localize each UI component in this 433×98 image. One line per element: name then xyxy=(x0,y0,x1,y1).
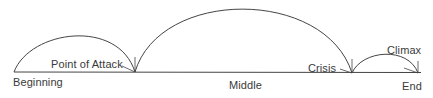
climax-label: Climax xyxy=(387,45,421,56)
climax-arc xyxy=(352,54,418,73)
diagram-lines xyxy=(0,0,433,98)
end-label: End xyxy=(402,81,422,92)
crisis-label: Crisis xyxy=(308,63,336,74)
timeline-baseline xyxy=(14,72,421,73)
beginning-label: Beginning xyxy=(13,77,63,88)
plot-structure-diagram: Beginning Point of Attack Middle Crisis … xyxy=(0,0,433,98)
point-of-attack-label: Point of Attack xyxy=(51,59,123,70)
middle-label: Middle xyxy=(229,80,262,91)
